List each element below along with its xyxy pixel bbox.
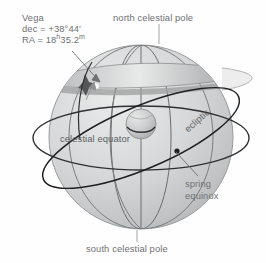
vega-annotation: Vega dec = +38°44′ RA = 18h35.2m	[22, 12, 85, 46]
declination-band-outer	[222, 68, 252, 90]
label-celestial-equator: celestial equator	[60, 133, 130, 144]
vega-name: Vega	[22, 12, 85, 23]
label-spring-equinox: spring equinox	[185, 178, 243, 201]
ra-prefix: RA = 18	[22, 34, 56, 45]
celestial-sphere-diagram: Vega dec = +38°44′ RA = 18h35.2m north c…	[0, 0, 266, 263]
label-south-celestial-pole: south celestial pole	[86, 243, 168, 254]
vega-declination: dec = +38°44′	[22, 23, 85, 34]
vega-right-ascension: RA = 18h35.2m	[22, 34, 85, 45]
ra-minutes: 35.2	[60, 34, 79, 45]
earth-sphere	[126, 109, 156, 139]
label-spring-equinox-line2: equinox	[185, 190, 243, 202]
label-north-celestial-pole: north celestial pole	[113, 12, 193, 23]
ra-minute-unit: m	[79, 33, 85, 40]
label-spring-equinox-line1: spring	[185, 178, 243, 190]
